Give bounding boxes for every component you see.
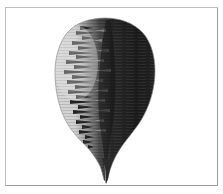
specimen-stage xyxy=(6,8,217,185)
light-vane-highlight xyxy=(54,25,98,101)
feather-specimen-image xyxy=(6,8,217,185)
figure-root: feather-specimen xyxy=(0,0,223,194)
